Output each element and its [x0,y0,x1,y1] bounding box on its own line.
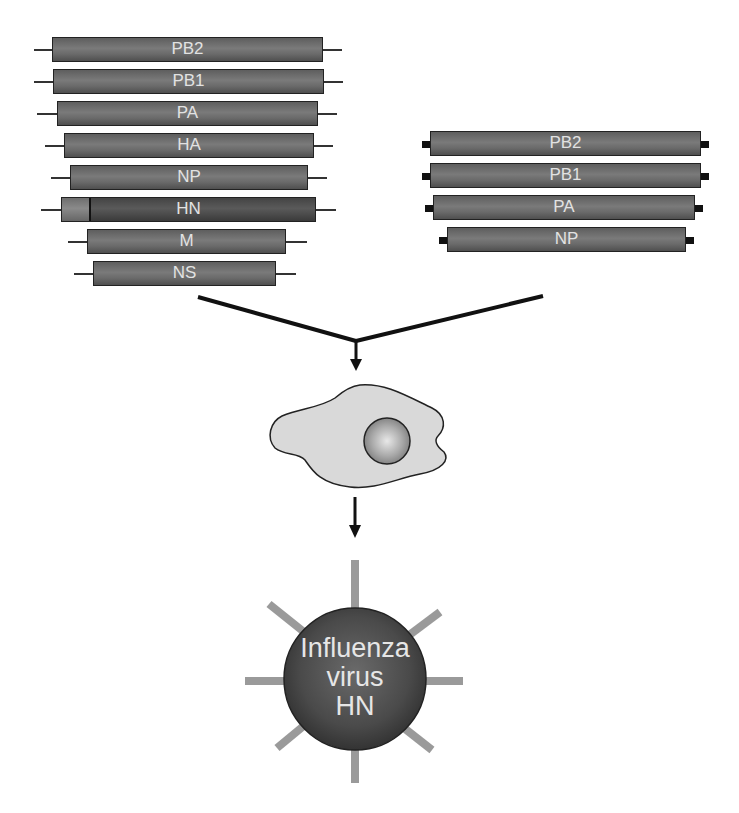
left-segment-hn: HN [61,197,316,222]
segment-label: HA [65,134,313,157]
right-segment-pb2: PB2 [430,131,701,156]
left-segment-pb1: PB1 [53,69,324,94]
right-segment-pa: PA [433,195,695,220]
left-segment-pb2: PB2 [52,37,323,62]
virus-label-line-1: Influenza [284,634,426,663]
virus-label-line-3: HN [284,692,426,721]
right-segment-np: NP [447,227,686,252]
segment-label: NP [71,166,307,189]
diagram-stage: PB2PB1PAHANPHNMNS PB2PB1PANP [0,0,739,813]
segment-label: PB2 [53,38,322,61]
segment-label: PA [58,102,317,125]
segment-label: NP [448,228,685,251]
left-segment-ha: HA [64,133,314,158]
segment-label: PB2 [431,132,700,155]
segment-label: HN [62,198,315,221]
segment-label: NS [94,262,275,285]
segment-label: M [88,230,285,253]
segment-label: PB1 [54,70,323,93]
virus-label-line-2: virus [284,663,426,692]
right-segment-pb1: PB1 [430,163,701,188]
left-segment-np: NP [70,165,308,190]
left-segment-pa: PA [57,101,318,126]
left-segment-m: M [87,229,286,254]
virus-label: Influenza virus HN [284,634,426,721]
left-segment-ns: NS [93,261,276,286]
segment-label: PB1 [431,164,700,187]
merge-arrow [198,296,543,371]
nucleus-icon [364,418,410,464]
down-arrow [349,497,361,538]
segment-label: PA [434,196,694,219]
cell-icon [270,385,446,488]
